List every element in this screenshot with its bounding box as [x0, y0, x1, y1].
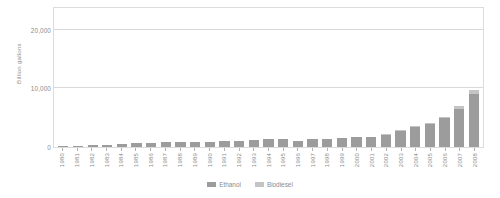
bar-group	[364, 8, 379, 147]
x-tick-label: 1989	[192, 153, 198, 167]
bar-segment-ethanol	[307, 139, 317, 147]
x-tick-mark	[342, 148, 343, 151]
x-tick-2004: 2004	[409, 148, 423, 171]
x-tick-mark	[91, 148, 92, 151]
x-tick-2002: 2002	[379, 148, 393, 171]
bar-segment-ethanol	[454, 109, 464, 147]
stacked-bar	[102, 145, 112, 147]
bar-group	[247, 8, 262, 147]
bar-group	[203, 8, 218, 147]
x-tick-mark	[194, 148, 195, 151]
x-tick-label: 1993	[251, 153, 257, 167]
stacked-bar	[190, 142, 200, 147]
stacked-bar	[425, 123, 435, 147]
x-tick-mark	[283, 148, 284, 151]
bar-group	[56, 8, 71, 147]
x-tick-mark	[312, 148, 313, 151]
bar-segment-ethanol	[410, 127, 420, 147]
stacked-bar	[117, 144, 127, 147]
stacked-bar	[454, 106, 464, 147]
x-tick-label: 1994	[266, 153, 272, 167]
x-tick-mark	[121, 148, 122, 151]
bar-group	[291, 8, 306, 147]
bar-segment-ethanol	[175, 142, 185, 147]
stacked-bar	[337, 138, 347, 147]
x-tick-2007: 2007	[453, 148, 467, 171]
x-tick-label: 1981	[74, 153, 80, 167]
bar-segment-ethanol	[425, 124, 435, 147]
x-tick-label: 1984	[118, 153, 124, 167]
x-tick-label: 1995	[280, 153, 286, 167]
x-tick-label: 1997	[310, 153, 316, 167]
x-tick-mark	[77, 148, 78, 151]
x-tick-mark	[209, 148, 210, 151]
bar-group	[334, 8, 349, 147]
x-tick-1991: 1991	[217, 148, 231, 171]
bar-group	[305, 8, 320, 147]
bar-segment-ethanol	[117, 144, 127, 147]
bar-segment-ethanol	[293, 141, 303, 147]
x-tick-2006: 2006	[438, 148, 452, 171]
legend-label: Ethanol	[219, 181, 241, 188]
stacked-bar	[278, 139, 288, 147]
stacked-bar	[234, 141, 244, 147]
legend-item-biodiesel[interactable]: Biodiesel	[255, 181, 293, 188]
x-tick-mark	[445, 148, 446, 151]
x-tick-2008: 2008	[468, 148, 482, 171]
stacked-bar	[469, 90, 479, 147]
bar-group	[276, 8, 291, 147]
bar-segment-ethanol	[131, 143, 141, 147]
bar-segment-ethanol	[263, 139, 273, 147]
bar-segment-ethanol	[337, 138, 347, 147]
x-tick-1996: 1996	[291, 148, 305, 171]
x-tick-1982: 1982	[85, 148, 99, 171]
y-tick-label-20000: 20,000	[5, 27, 51, 34]
x-tick-1999: 1999	[335, 148, 349, 171]
stacked-bar	[58, 146, 68, 147]
x-tick-mark	[297, 148, 298, 151]
plot-area	[53, 7, 484, 148]
x-tick-2001: 2001	[365, 148, 379, 171]
bar-segment-ethanol	[278, 139, 288, 147]
x-tick-mark	[165, 148, 166, 151]
stacked-bar	[263, 139, 273, 147]
x-tick-2005: 2005	[423, 148, 437, 171]
x-tick-mark	[327, 148, 328, 151]
x-tick-1997: 1997	[306, 148, 320, 171]
bar-segment-ethanol	[146, 143, 156, 147]
x-tick-1993: 1993	[247, 148, 261, 171]
stacked-bar	[175, 142, 185, 147]
x-axis: 1980198119821983198419851986198719881989…	[53, 148, 484, 178]
x-tick-label: 2006	[442, 153, 448, 167]
x-tick-label: 1996	[295, 153, 301, 167]
legend-item-ethanol[interactable]: Ethanol	[207, 181, 241, 188]
x-tick-mark	[415, 148, 416, 151]
bar-group	[188, 8, 203, 147]
bar-group	[422, 8, 437, 147]
bar-group	[232, 8, 247, 147]
stacked-bar	[439, 117, 449, 147]
stacked-bar	[88, 145, 98, 147]
x-tick-mark	[180, 148, 181, 151]
x-tick-mark	[62, 148, 63, 151]
x-tick-1980: 1980	[55, 148, 69, 171]
bar-group	[393, 8, 408, 147]
stacked-bar	[161, 142, 171, 147]
bar-group	[144, 8, 159, 147]
stacked-bar	[73, 146, 83, 147]
bar-segment-ethanol	[381, 135, 391, 148]
bar-group	[85, 8, 100, 147]
bar-series-container	[54, 8, 483, 147]
legend-swatch-icon	[207, 182, 216, 187]
x-tick-mark	[459, 148, 460, 151]
stacked-bar	[351, 137, 361, 147]
bar-group	[437, 8, 452, 147]
stacked-bar	[131, 143, 141, 147]
stacked-bar	[395, 130, 405, 147]
y-tick-label-10000: 10,000	[5, 85, 51, 92]
bar-group	[115, 8, 130, 147]
x-tick-label: 1987	[162, 153, 168, 167]
x-tick-mark	[253, 148, 254, 151]
bar-segment-ethanol	[234, 141, 244, 147]
x-tick-mark	[135, 148, 136, 151]
